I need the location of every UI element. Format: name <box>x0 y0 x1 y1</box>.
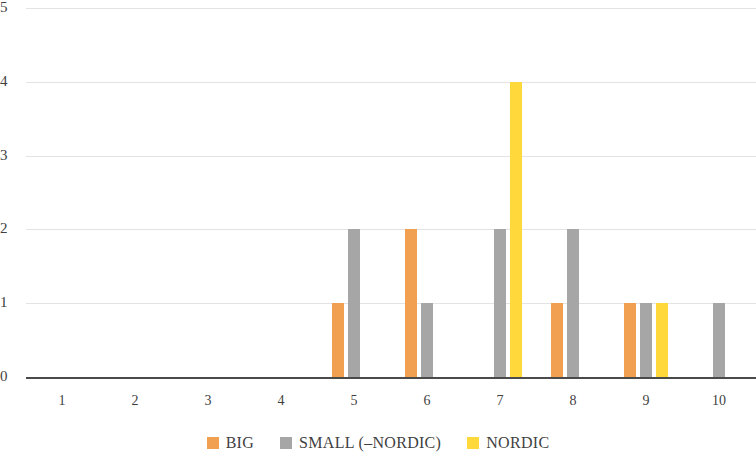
legend-item[interactable]: NORDIC <box>467 435 549 451</box>
bar <box>348 229 360 377</box>
bar <box>405 229 417 377</box>
bar <box>567 229 579 377</box>
bar <box>656 303 668 377</box>
y-axis-tick-label: 0 <box>0 369 20 384</box>
chart-legend: BIGSMALL (–NORDIC)NORDIC <box>0 431 756 455</box>
bar <box>624 303 636 377</box>
bar <box>640 303 652 377</box>
legend-swatch-icon <box>207 437 219 449</box>
x-axis-tick-label: 9 <box>626 392 666 410</box>
y-axis-tick-label: 3 <box>0 148 20 163</box>
bar <box>494 229 506 377</box>
bar <box>421 303 433 377</box>
legend-item[interactable]: BIG <box>207 435 254 451</box>
legend-swatch-icon <box>467 437 479 449</box>
x-axis-tick-label: 5 <box>334 392 374 410</box>
x-axis-tick-label: 7 <box>480 392 520 410</box>
legend-item[interactable]: SMALL (–NORDIC) <box>280 435 441 451</box>
x-axis-tick-label: 1 <box>42 392 82 410</box>
x-axis-tick-label: 10 <box>699 392 739 410</box>
bar <box>713 303 725 377</box>
x-axis-tick-label: 2 <box>115 392 155 410</box>
x-axis-tick-label: 8 <box>553 392 593 410</box>
bars-layer <box>26 8 756 378</box>
plot-area: 012345 <box>26 8 756 378</box>
bar <box>551 303 563 377</box>
bar-chart: 012345 12345678910 BIGSMALL (–NORDIC)NOR… <box>0 0 756 462</box>
y-axis-tick-label: 2 <box>0 221 20 236</box>
bar <box>510 82 522 377</box>
y-axis-tick-label: 4 <box>0 74 20 89</box>
x-axis-tick-label: 3 <box>188 392 228 410</box>
legend-label: BIG <box>226 435 254 451</box>
y-axis-tick-label: 5 <box>0 0 20 15</box>
legend-swatch-icon <box>280 437 292 449</box>
x-axis-label-group: 12345678910 <box>26 392 756 416</box>
y-axis-tick-label: 1 <box>0 295 20 310</box>
legend-label: SMALL (–NORDIC) <box>299 435 441 451</box>
x-axis-tick-label: 4 <box>261 392 301 410</box>
x-axis-tick-label: 6 <box>407 392 447 410</box>
bar <box>332 303 344 377</box>
legend-label: NORDIC <box>486 435 549 451</box>
